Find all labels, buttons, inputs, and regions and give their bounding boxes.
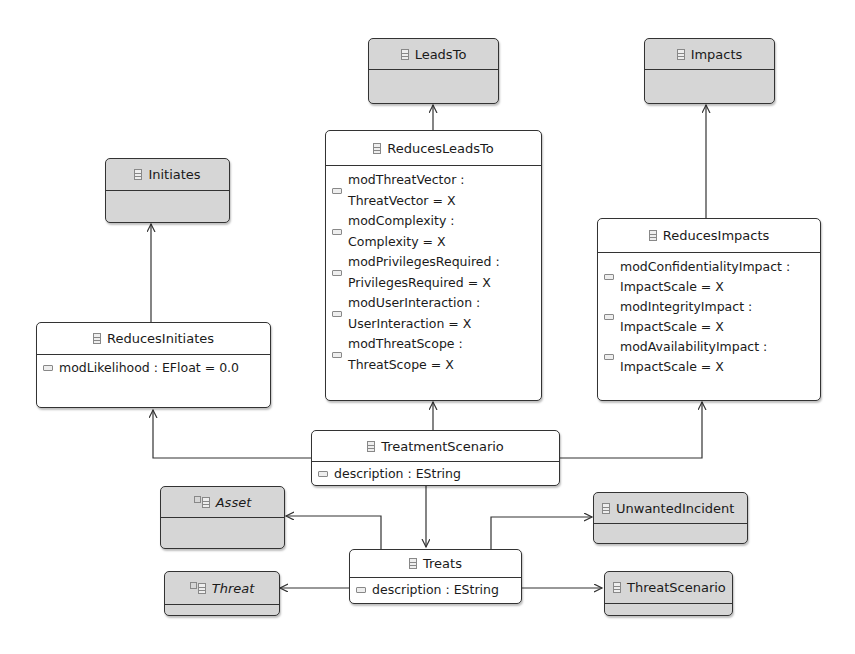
eclass-icon	[677, 49, 685, 60]
eattribute-icon	[332, 188, 342, 194]
attribute-modintegrityimpact[interactable]: modIntegrityImpact : ImpactScale = X	[604, 297, 816, 337]
class-name: ThreatScenario	[627, 580, 726, 595]
attribute-modconfidentialityimpact[interactable]: modConfidentialityImpact : ImpactScale =…	[604, 257, 816, 297]
class-leadsto[interactable]: LeadsTo	[368, 38, 499, 104]
eclass-icon	[613, 582, 621, 593]
class-name: Treats	[423, 556, 462, 571]
class-reducesimpacts[interactable]: ReducesImpacts modConfidentialityImpact …	[597, 218, 821, 401]
eattribute-icon	[604, 274, 614, 280]
edge-treats-asset	[286, 516, 381, 549]
class-unwantedincident[interactable]: UnwantedIncident	[593, 492, 748, 544]
eclass-icon	[373, 143, 381, 154]
eclass-icon	[602, 503, 610, 514]
eattribute-icon	[332, 229, 342, 235]
attribute-modcomplexity[interactable]: modComplexity : Complexity = X	[332, 211, 537, 252]
eclass-icon	[367, 441, 375, 452]
class-name: Impacts	[691, 47, 743, 62]
class-impacts[interactable]: Impacts	[644, 38, 775, 104]
eattribute-icon	[356, 587, 366, 593]
eclass-icon	[409, 558, 417, 569]
class-reducesleadsto[interactable]: ReducesLeadsTo modThreatVector : ThreatV…	[325, 130, 542, 401]
eattribute-icon	[604, 314, 614, 320]
attribute-description[interactable]: description : EString	[318, 464, 555, 483]
eattribute-icon	[332, 311, 342, 317]
class-name: Asset	[216, 495, 252, 510]
attribute-modthreatvector[interactable]: modThreatVector : ThreatVector = X	[332, 170, 537, 211]
attribute-description[interactable]: description : EString	[356, 580, 517, 599]
class-name: ReducesLeadsTo	[387, 141, 494, 156]
eclass-icon	[93, 333, 101, 344]
edge-treats-unwantedincident	[491, 517, 592, 549]
attribute-moduserinteraction[interactable]: modUserInteraction : UserInteraction = X	[332, 293, 537, 334]
class-initiates[interactable]: Initiates	[105, 158, 230, 223]
class-name: UnwantedIncident	[616, 501, 734, 516]
class-name: Initiates	[148, 167, 200, 182]
eclass-icon	[134, 169, 142, 180]
class-name: TreatmentScenario	[381, 439, 504, 454]
eclass-icon	[649, 230, 657, 241]
eattribute-icon	[604, 354, 614, 360]
class-reducesinitiates[interactable]: ReducesInitiates modLikelihood : EFloat …	[36, 322, 271, 408]
class-name: ReducesInitiates	[107, 331, 214, 346]
class-treatmentscenario[interactable]: TreatmentScenario description : EString	[311, 430, 560, 486]
class-name: Threat	[212, 581, 255, 596]
abstract-marker-icon	[194, 496, 201, 503]
class-threatscenario[interactable]: ThreatScenario	[604, 571, 733, 616]
eclass-icon	[202, 497, 210, 508]
eclass-icon	[198, 583, 206, 594]
eattribute-icon	[318, 471, 328, 477]
edge-treatmentscenario-reducesinitiates	[153, 410, 311, 458]
class-treats[interactable]: Treats description : EString	[349, 549, 522, 604]
eattribute-icon	[332, 352, 342, 358]
attribute-modavailabilityimpact[interactable]: modAvailabilityImpact : ImpactScale = X	[604, 337, 816, 377]
class-name: LeadsTo	[415, 47, 467, 62]
attribute-modthreatscope[interactable]: modThreatScope : ThreatScope = X	[332, 334, 537, 375]
class-asset[interactable]: Asset	[160, 486, 285, 549]
class-name: ReducesImpacts	[663, 228, 770, 243]
class-threat[interactable]: Threat	[164, 571, 280, 616]
edge-treatmentscenario-reducesimpacts	[559, 402, 702, 458]
attribute-modprivilegesrequired[interactable]: modPrivilegesRequired : PrivilegesRequir…	[332, 252, 537, 293]
eclass-icon	[401, 49, 409, 60]
eattribute-icon	[332, 270, 342, 276]
eattribute-icon	[43, 365, 53, 371]
abstract-marker-icon	[190, 582, 197, 589]
attribute-modlikelihood[interactable]: modLikelihood : EFloat = 0.0	[43, 358, 266, 377]
